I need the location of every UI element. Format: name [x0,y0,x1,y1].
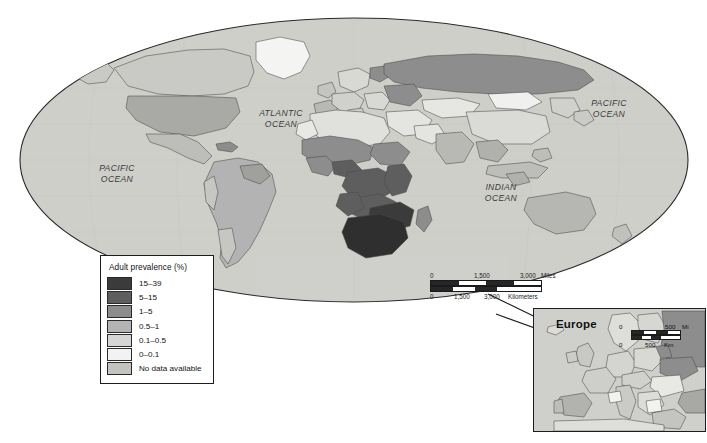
europe-inset: Europe 0 500 Mi 0 500 [533,308,706,432]
scale-seg [642,336,652,339]
inset-scale-km-tick-0: 0 [619,341,622,348]
scale-seg [514,281,542,285]
legend-label-5-15: 5–15 [139,293,157,302]
inset-scale-km-unit: Km [664,341,673,348]
map-figure: PACIFIC OCEAN ATLANTIC OCEAN PACIFIC OCE… [0,0,707,443]
scale-seg [453,287,475,291]
legend-label-05-1: 0.5–1 [139,322,159,331]
inset-scale-km-row [631,335,681,340]
legend-label-1-5: 1–5 [139,307,153,316]
scale-seg [632,336,642,339]
legend-item-5-15: 5–15 [107,290,207,304]
scale-seg [644,331,656,334]
ocean-label-pacific-west: PACIFIC OCEAN [86,163,148,184]
legend-swatch-01-05 [107,334,132,347]
legend-swatch-0-01 [107,348,132,361]
country-switzerland-inset [608,391,622,403]
scale-km-tick-0: 0 [430,293,434,300]
scale-km-tick-1500: 1,500 [454,293,470,300]
legend: Adult prevalence (%) 15–39 5–15 1–5 0.5–… [100,255,214,384]
inset-scale-mi-unit: Mi [682,323,689,330]
legend-item-15-39: 15–39 [107,276,207,290]
scale-seg [632,331,644,334]
ocean-label-pacific-east: PACIFIC OCEAN [578,98,640,119]
inset-scale-graphic [631,330,681,340]
scale-seg [486,281,514,285]
scale-seg [431,281,459,285]
legend-swatch-5-15 [107,291,132,304]
scale-km-tick-3000: 3,000 [484,293,500,300]
legend-item-01-05: 0.1–0.5 [107,333,207,347]
legend-swatch-05-1 [107,320,132,333]
legend-swatch-15-39 [107,277,132,290]
scale-km-unit: Kilometers [508,293,538,300]
inset-scale-km-tick-500: 500 [645,341,655,348]
legend-label-01-05: 0.1–0.5 [139,336,166,345]
scale-seg [656,331,668,334]
scale-miles-tick-3000: 3,000 [520,272,536,279]
legend-item-no-data: No data available [107,362,207,376]
scale-bar-km-row [430,286,542,292]
legend-item-0-01: 0–0.1 [107,347,207,361]
scale-miles-unit: Miles [541,272,556,279]
country-serbia [646,399,662,413]
inset-scale-mi-tick-500: 500 [665,323,675,330]
legend-swatch-no-data [107,362,132,375]
scale-seg [661,336,680,339]
ocean-label-indian: INDIAN OCEAN [470,182,532,203]
scale-seg [475,287,497,291]
scale-seg [459,281,487,285]
scale-seg [431,287,453,291]
scale-seg [497,287,541,291]
legend-label-15-39: 15–39 [139,279,162,288]
scale-miles-tick-1500: 1,500 [474,272,490,279]
scale-seg [651,336,661,339]
scale-bar-graphic [430,280,542,292]
legend-item-1-5: 1–5 [107,305,207,319]
ocean-label-atlantic: ATLANTIC OCEAN [245,108,317,129]
scale-seg [668,331,680,334]
legend-swatch-1-5 [107,305,132,318]
inset-title: Europe [556,318,597,330]
legend-item-05-1: 0.5–1 [107,319,207,333]
scale-miles-tick-0: 0 [430,272,434,279]
inset-scale-mi-tick-0: 0 [619,323,622,330]
country-portugal [554,399,564,413]
scale-bar: 0 1,500 3,000 Miles 0 1,500 3,000 Kilome… [430,272,555,300]
legend-label-no-data: No data available [139,364,202,373]
legend-title: Adult prevalence (%) [109,262,207,272]
country-ireland [566,351,578,363]
inset-scale-bar: 0 500 Mi 0 500 Km [619,323,699,349]
legend-label-0-01: 0–0.1 [139,350,159,359]
